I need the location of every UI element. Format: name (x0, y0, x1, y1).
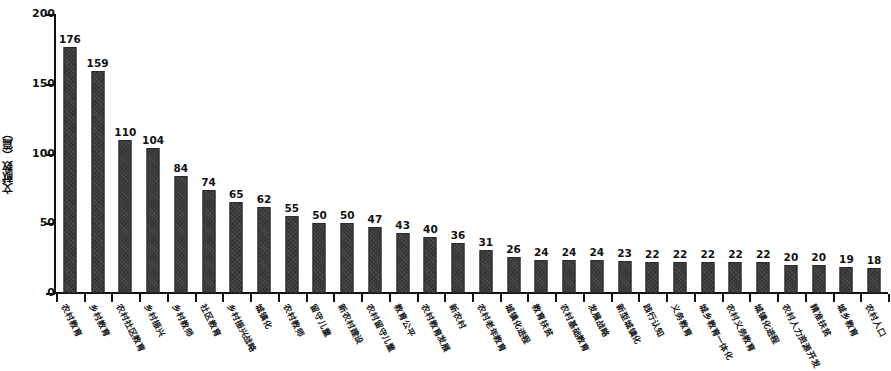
x-tick-mark (749, 294, 751, 302)
bar[interactable] (618, 261, 631, 293)
x-tick-mark (694, 294, 696, 302)
bar[interactable] (535, 260, 548, 293)
bar-slot: 176 (56, 14, 84, 293)
bar[interactable] (507, 257, 520, 293)
bar[interactable] (479, 250, 492, 293)
bar-value-label: 36 (451, 230, 466, 241)
bar-value-label: 31 (479, 237, 494, 248)
bar-value-label: 22 (700, 249, 715, 260)
x-tick-mark (361, 294, 363, 302)
x-tick-mark (222, 294, 224, 302)
bar-value-label: 23 (617, 248, 632, 259)
x-axis-label: 社区教育 (198, 303, 222, 338)
bar[interactable] (563, 260, 576, 293)
bar-value-label: 74 (201, 177, 216, 188)
bar-slot: 50 (306, 14, 334, 293)
x-axis-label: 发展战略 (586, 303, 610, 338)
bar[interactable] (174, 176, 187, 293)
bar[interactable] (63, 47, 76, 293)
bar-slot: 20 (805, 14, 833, 293)
bar[interactable] (646, 262, 659, 293)
y-tick: 200 (0, 14, 55, 16)
bar-chart: 文献数（篇） 050100150200 17615911010484746562… (0, 0, 891, 371)
bar-slot: 23 (611, 14, 639, 293)
bar[interactable] (119, 140, 132, 293)
bar[interactable] (147, 148, 160, 293)
bar-value-label: 40 (423, 224, 438, 235)
bar-slot: 104 (139, 14, 167, 293)
bar-value-label: 110 (114, 127, 136, 138)
bar-slot: 22 (666, 14, 694, 293)
x-tick-mark (167, 294, 169, 302)
bar-slot: 36 (444, 14, 472, 293)
y-tick-label: 100 (27, 147, 55, 160)
bar[interactable] (590, 260, 603, 293)
bar[interactable] (701, 262, 714, 293)
bar[interactable] (257, 207, 270, 293)
x-axis-label: 城镇化进程 (503, 303, 532, 346)
bar-value-label: 55 (284, 203, 299, 214)
bar[interactable] (341, 223, 354, 293)
x-axis-label: 农村老年教育 (475, 303, 508, 354)
bar-slot: 24 (527, 14, 555, 293)
x-axis-label: 农村教育发展 (419, 303, 452, 354)
y-tick-label: 200 (27, 7, 55, 20)
x-tick-mark (860, 294, 862, 302)
bar-slot: 22 (638, 14, 666, 293)
bar-value-label: 43 (395, 220, 410, 231)
x-axis-label: 乡村教育 (87, 303, 111, 338)
bar[interactable] (673, 262, 686, 293)
x-tick-mark (195, 294, 197, 302)
bar[interactable] (757, 262, 770, 293)
x-axis-label: 新农村建设 (336, 303, 365, 346)
bar[interactable] (840, 267, 853, 294)
bar[interactable] (368, 227, 381, 293)
bar-slot: 22 (694, 14, 722, 293)
x-tick-mark (333, 294, 335, 302)
x-tick-mark (583, 294, 585, 302)
x-tick-mark (666, 294, 668, 302)
bar[interactable] (202, 190, 215, 293)
bar[interactable] (452, 243, 465, 293)
bar-value-label: 24 (562, 247, 577, 258)
bar[interactable] (868, 268, 881, 293)
x-tick-mark (417, 294, 419, 302)
bar-slot: 55 (278, 14, 306, 293)
bar-value-label: 22 (728, 249, 743, 260)
y-axis-title: 文献数（篇） (2, 128, 18, 194)
bar-slot: 19 (833, 14, 861, 293)
bar[interactable] (396, 233, 409, 293)
bar[interactable] (812, 265, 825, 293)
bar-slot: 20 (777, 14, 805, 293)
x-tick-mark (527, 294, 529, 302)
x-axis-label: 城乡教育 (835, 303, 859, 338)
x-axis-label: 践行认知 (641, 303, 665, 338)
bar[interactable] (91, 71, 104, 293)
bar-value-label: 26 (506, 244, 521, 255)
bar[interactable] (285, 216, 298, 293)
x-tick-mark (888, 294, 890, 302)
bar-slot: 110 (111, 14, 139, 293)
y-tick: 0 (0, 293, 55, 295)
bar-value-label: 104 (142, 135, 164, 146)
x-axis-label: 城镇化进程 (752, 303, 781, 346)
x-axis-label: 乡村振兴 (142, 303, 166, 338)
y-tick: 50 (0, 223, 55, 225)
bar[interactable] (784, 265, 797, 293)
bar-slot: 26 (500, 14, 528, 293)
bar-value-label: 50 (312, 210, 327, 221)
x-axis-label: 教育扶贫 (530, 303, 554, 338)
bar[interactable] (424, 237, 437, 293)
bar[interactable] (230, 202, 243, 293)
y-tick-label: 50 (27, 216, 55, 229)
bar[interactable] (729, 262, 742, 293)
bar[interactable] (313, 223, 326, 293)
bar-slot: 50 (333, 14, 361, 293)
x-axis-label: 农村留守儿童 (364, 303, 397, 354)
x-axis-label: 乡村教师 (170, 303, 194, 338)
x-axis-label: 精准扶贫 (808, 303, 832, 338)
bar-value-label: 20 (811, 252, 826, 263)
x-tick-mark (777, 294, 779, 302)
x-tick-mark (111, 294, 113, 302)
x-tick-mark (389, 294, 391, 302)
